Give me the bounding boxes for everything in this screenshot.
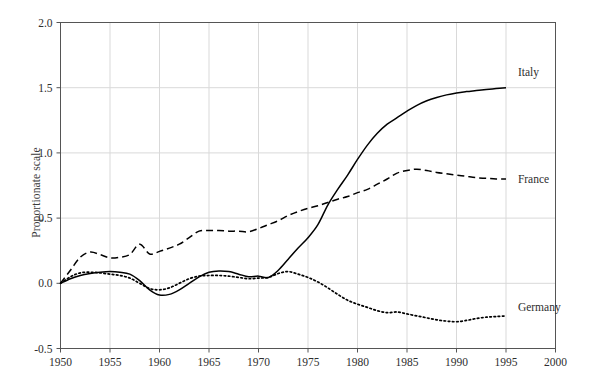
gridlines [61, 23, 556, 349]
x-tick-label: 1995 [495, 356, 518, 368]
series-label-france: France [518, 173, 549, 185]
series-line-germany [61, 272, 507, 322]
x-tick-label: 1965 [198, 356, 221, 368]
y-tick-label: 1.0 [12, 147, 53, 159]
x-tick-label: 1960 [148, 356, 171, 368]
y-tick-label: -0.5 [12, 343, 53, 355]
x-tick-label: 2000 [544, 356, 567, 368]
series-label-italy: Italy [518, 66, 539, 78]
series-line-italy [61, 88, 507, 296]
series-line-france [61, 169, 507, 283]
chart-canvas [0, 0, 589, 385]
y-tick-label: 0.0 [12, 277, 53, 289]
y-tick-label: 0.5 [12, 212, 53, 224]
tick-marks [57, 23, 556, 353]
x-tick-label: 1970 [247, 356, 270, 368]
x-tick-label: 1980 [346, 356, 369, 368]
x-tick-label: 1975 [297, 356, 320, 368]
y-tick-label: 1.5 [12, 82, 53, 94]
series-label-germany: Germany [518, 301, 561, 313]
x-tick-label: 1955 [99, 356, 122, 368]
chart-figure: -0.50.00.51.01.52.0195019551960196519701… [0, 0, 589, 385]
y-tick-label: 2.0 [12, 17, 53, 29]
x-tick-label: 1990 [445, 356, 468, 368]
x-tick-label: 1950 [49, 356, 72, 368]
x-tick-label: 1985 [396, 356, 419, 368]
